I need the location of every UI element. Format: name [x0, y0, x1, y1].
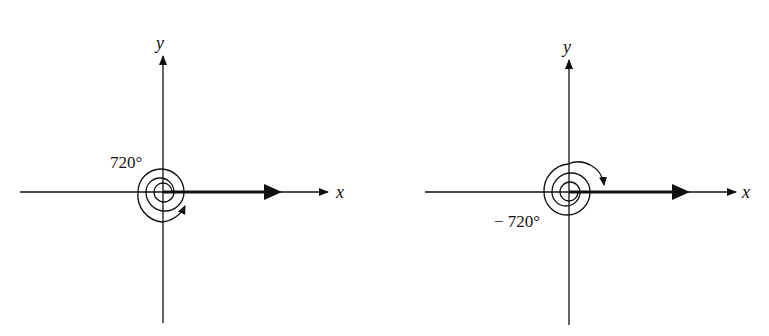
x-axis-label: x	[741, 182, 750, 202]
figure-positive-720: y x 720°	[20, 33, 344, 323]
rotation-spiral-ccw	[138, 169, 185, 222]
terminal-ray-arrowhead	[264, 184, 282, 200]
terminal-ray-arrowhead	[672, 184, 690, 200]
rotation-spiral-cw	[544, 162, 604, 215]
y-axis-label: y	[561, 37, 571, 57]
figure-negative-720: y x − 720°	[425, 37, 750, 325]
angle-label: − 720°	[494, 212, 540, 231]
angle-diagrams: y x 720° y x − 720°	[0, 0, 769, 336]
angle-label: 720°	[110, 153, 142, 172]
x-axis-label: x	[335, 182, 344, 202]
y-axis-label: y	[154, 33, 164, 53]
